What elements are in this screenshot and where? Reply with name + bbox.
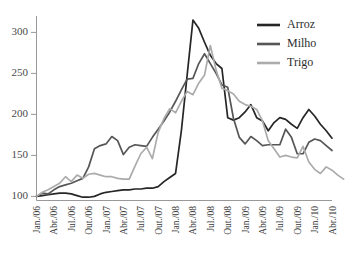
- y-tick-label: 250: [12, 66, 29, 78]
- x-tick-label: Abr./08: [188, 206, 198, 235]
- chart-container: 100150200250300 Jan./06Abr./06Jul./06Out…: [0, 0, 345, 268]
- x-tick-label: Jul./07: [136, 206, 146, 232]
- chart-legend: ArrozMilhoTrigo: [257, 17, 316, 69]
- x-tick-label: Abr./06: [49, 206, 59, 235]
- y-tick-label: 100: [12, 189, 29, 201]
- legend-label-milho: Milho: [287, 36, 316, 50]
- x-tick-label: Jan./06: [32, 206, 42, 233]
- legend-label-trigo: Trigo: [287, 55, 313, 69]
- y-tick-label: 150: [12, 148, 29, 160]
- x-tick-label: Abr./10: [328, 206, 338, 235]
- y-tick-label: 200: [12, 107, 29, 119]
- x-tick-label: Jul./06: [67, 206, 77, 232]
- x-tick-group: Jan./06Abr./06Jul./06Out./06Jan./07Abr./…: [32, 206, 338, 235]
- y-tick-label: 300: [12, 25, 29, 37]
- x-tick-label: Jan./09: [241, 206, 251, 233]
- x-tick-label: Abr./09: [258, 206, 268, 235]
- x-tick-label: Out./07: [154, 206, 164, 235]
- legend-label-arroz: Arroz: [287, 17, 315, 31]
- series-line-milho: [37, 54, 333, 197]
- x-tick-label: Out./09: [293, 206, 303, 235]
- line-chart: 100150200250300 Jan./06Abr./06Jul./06Out…: [0, 0, 345, 268]
- y-axis: 100150200250300: [12, 16, 37, 201]
- x-tick-label: Jan./08: [171, 206, 181, 233]
- x-tick-label: Jul./08: [206, 206, 216, 232]
- y-tick-group: 100150200250300: [12, 25, 37, 201]
- x-tick-label: Jul./09: [275, 206, 285, 232]
- x-tick-label: Out./06: [84, 206, 94, 235]
- x-tick-label: Out./08: [223, 206, 233, 235]
- x-tick-label: Jan./10: [310, 206, 320, 233]
- x-tick-label: Jan./07: [102, 206, 112, 233]
- x-axis: Jan./06Abr./06Jul./06Out./06Jan./07Abr./…: [32, 201, 338, 235]
- x-tick-label: Abr./07: [119, 206, 129, 235]
